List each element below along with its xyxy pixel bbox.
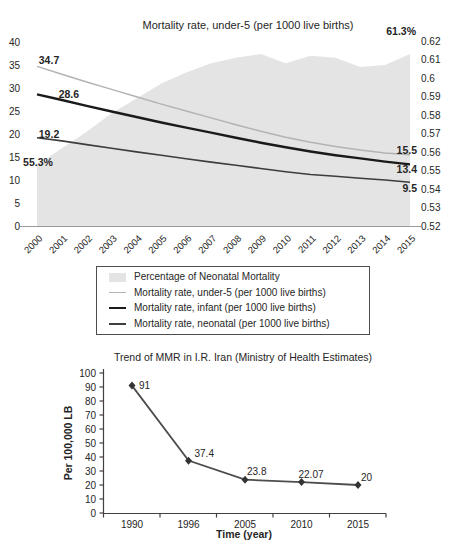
data-point-value-label: 23.8 [247, 466, 267, 477]
chart1-x-axis-tick: 2003 [96, 233, 119, 256]
legend-label: Mortality rate, infant (per 1000 live bi… [134, 303, 316, 313]
chart2-y-axis-tick: 0 [90, 508, 96, 519]
chart1-left-axis-tick: 15 [9, 152, 21, 163]
chart1-x-axis-tick: 2015 [395, 233, 418, 256]
line-swatch-icon [109, 323, 126, 325]
legend-label: Mortality rate, neonatal (per 1000 live … [134, 319, 330, 329]
chart2-y-axis-tick: 90 [85, 382, 97, 393]
chart1-left-axis-tick: 40 [9, 37, 21, 48]
chart1-x-axis-tick: 2010 [270, 233, 293, 256]
series-end-value-label: 13.4 [397, 163, 418, 175]
chart1-legend: Percentage of Neonatal Mortality Mortali… [96, 266, 370, 335]
chart1-left-axis-tick: 30 [9, 83, 21, 94]
chart2-y-axis-tick: 20 [85, 480, 97, 491]
line-swatch-icon [109, 292, 126, 293]
area-swatch-icon [109, 273, 126, 282]
chart1-left-axis-tick: 0 [14, 221, 20, 232]
chart1-left-axis-tick: 10 [9, 175, 21, 186]
legend-label: Mortality rate, under-5 (per 1000 live b… [134, 288, 326, 298]
chart2-y-axis-label: Per 100,000 LB [62, 405, 74, 480]
chart1-left-axis-tick: 25 [9, 106, 21, 117]
chart1-x-axis-tick: 2011 [296, 233, 318, 255]
chart1-x-axis-tick: 2004 [121, 233, 144, 256]
chart1-x-axis-tick: 2014 [370, 233, 393, 256]
series-end-value-label: 15.5 [397, 144, 418, 156]
legend-item-under5: Mortality rate, under-5 (per 1000 live b… [109, 288, 369, 298]
chart1-right-axis-tick: 0.57 [421, 128, 441, 139]
data-point-value-label: 22.07 [299, 469, 324, 480]
area-end-value-label: 61.3% [386, 25, 416, 37]
data-point-value-label: 91 [139, 380, 151, 391]
chart2-axes [104, 369, 387, 514]
chart2-x-axis-label: Time (year) [216, 528, 272, 540]
mortality-figure: Mortality rate, under-5 (per 1000 live b… [0, 0, 455, 550]
chart2-y-axis-tick: 40 [85, 452, 97, 463]
chart1-x-axis-tick: 2001 [47, 233, 70, 256]
chart1-x-axis-tick: 2007 [196, 233, 219, 256]
chart1-right-axis-tick: 0.62 [421, 36, 441, 47]
neonatal-percentage-area [37, 54, 410, 226]
chart2-x-axis-tick: 1996 [177, 519, 200, 530]
diamond-marker-icon [242, 476, 249, 484]
chart1-title: Mortality rate, under-5 (per 1000 live b… [143, 19, 354, 31]
chart2-y-axis-tick: 60 [85, 424, 97, 435]
series-start-value-label: 34.7 [39, 54, 60, 66]
chart1-x-axis-tick: 2013 [345, 233, 368, 256]
chart1-x-axis-tick: 2012 [320, 233, 343, 256]
chart2-y-axis-tick: 10 [85, 494, 97, 505]
chart1-right-axis-tick: 0.6 [421, 73, 435, 84]
chart1-right-axis-tick: 0.55 [421, 165, 441, 176]
chart1-right-axis-tick: 0.56 [421, 147, 441, 158]
chart2-y-axis-tick: 50 [85, 438, 97, 449]
chart1-right-axis-tick: 0.54 [421, 184, 441, 195]
chart2-y-axis-tick: 70 [85, 410, 97, 421]
chart1-right-axis-tick: 0.59 [421, 91, 441, 102]
chart1-right-axis-tick: 0.61 [421, 54, 441, 65]
chart1-right-axis-tick: 0.58 [421, 110, 441, 121]
chart2-x-axis-tick: 2015 [347, 519, 370, 530]
chart1-x-axis-tick: 2009 [245, 233, 268, 256]
legend-label: Percentage of Neonatal Mortality [134, 272, 280, 282]
chart1-x-axis-tick: 2008 [221, 233, 244, 256]
chart1-right-axis-tick: 0.53 [421, 202, 441, 213]
chart2-title: Trend of MMR in I.R. Iran (Ministry of H… [114, 351, 372, 363]
series-start-value-label: 28.6 [59, 88, 80, 100]
chart1-x-axis-tick: 2005 [146, 233, 169, 256]
mmr-trend-line [132, 386, 358, 485]
series-end-value-label: 9.5 [402, 182, 417, 194]
legend-item-neonatal-percentage: Percentage of Neonatal Mortality [109, 272, 369, 282]
chart2-y-axis-tick: 80 [85, 396, 97, 407]
legend-item-infant: Mortality rate, infant (per 1000 live bi… [109, 303, 369, 313]
chart2-y-axis-tick: 100 [79, 368, 96, 379]
chart2-x-axis-tick: 1990 [121, 519, 144, 530]
data-point-value-label: 20 [361, 472, 373, 483]
area-start-value-label: 55.3% [23, 156, 53, 168]
chart2-x-axis-tick: 2010 [290, 519, 313, 530]
chart1-x-axis-tick: 2006 [171, 233, 194, 256]
chart1-x-axis-tick: 2000 [22, 233, 45, 256]
line-swatch-icon [109, 307, 126, 309]
chart1-left-axis-tick: 20 [9, 129, 21, 140]
chart1-x-axis-tick: 2002 [71, 233, 94, 256]
series-start-value-label: 19.2 [39, 128, 60, 140]
data-point-value-label: 37.4 [195, 448, 215, 459]
legend-item-neonatal: Mortality rate, neonatal (per 1000 live … [109, 319, 369, 329]
chart1-left-axis-tick: 35 [9, 60, 21, 71]
chart1-left-axis-tick: 5 [14, 198, 20, 209]
chart2-y-axis-tick: 30 [85, 466, 97, 477]
chart1-right-axis-tick: 0.52 [421, 221, 441, 232]
